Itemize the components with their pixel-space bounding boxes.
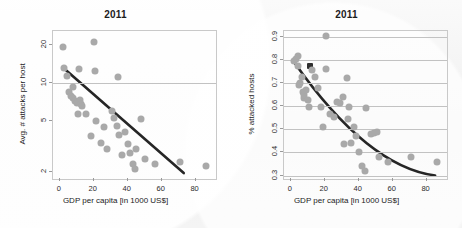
y-axis-tick-label: 2 bbox=[39, 169, 48, 173]
x-axis-tick-label: 0 bbox=[57, 184, 61, 193]
y-axis-tick-label: 0.3 bbox=[270, 169, 279, 179]
data-point bbox=[350, 123, 357, 130]
data-point bbox=[141, 156, 148, 163]
y-axis-tick-mark bbox=[49, 120, 52, 121]
data-point bbox=[111, 115, 118, 122]
x-axis-tick-mark bbox=[93, 178, 94, 181]
y-axis-tick-mark bbox=[280, 82, 283, 83]
y-axis-tick-mark bbox=[280, 175, 283, 176]
x-axis-tick-label: 0 bbox=[288, 184, 292, 193]
gridline bbox=[284, 176, 447, 177]
data-point bbox=[344, 115, 351, 122]
gridline bbox=[53, 83, 216, 84]
data-point bbox=[304, 97, 311, 104]
x-axis-tick-mark bbox=[127, 178, 128, 181]
data-point bbox=[433, 158, 440, 165]
data-point bbox=[78, 103, 85, 110]
gridline bbox=[284, 60, 447, 61]
y-axis-tick-mark bbox=[49, 44, 52, 45]
data-point bbox=[131, 166, 138, 173]
data-point bbox=[353, 133, 360, 140]
figure-root: 2011 251020020406080 GDP per capita [in … bbox=[0, 0, 462, 228]
data-point bbox=[355, 149, 362, 156]
x-axis-tick-label: 40 bbox=[123, 184, 131, 193]
data-point bbox=[64, 72, 71, 79]
y-axis-tick-label: 0.5 bbox=[270, 123, 279, 133]
y-axis-tick-label: 20 bbox=[39, 40, 48, 48]
gridline bbox=[284, 37, 447, 38]
panel-left-avg-attacks: 2011 251020020406080 GDP per capita [in … bbox=[0, 0, 231, 228]
data-point bbox=[60, 43, 67, 50]
data-point bbox=[114, 74, 121, 81]
panel-right-xlabel: GDP per capita [in 1000 US$] bbox=[231, 196, 462, 205]
data-point bbox=[151, 161, 158, 168]
x-axis-tick-label: 60 bbox=[156, 184, 164, 193]
data-point bbox=[295, 62, 302, 69]
y-axis-tick-mark bbox=[280, 59, 283, 60]
x-axis-tick-mark bbox=[290, 178, 291, 181]
panel-right-ylabel: % attacked hosts bbox=[247, 74, 256, 135]
x-axis-tick-mark bbox=[59, 178, 60, 181]
data-point bbox=[348, 140, 355, 147]
data-point bbox=[70, 84, 77, 91]
gridline bbox=[284, 83, 447, 84]
y-axis-tick-mark bbox=[280, 36, 283, 37]
x-axis-tick-label: 80 bbox=[190, 184, 198, 193]
data-point bbox=[314, 84, 321, 91]
data-point bbox=[346, 104, 353, 111]
x-axis-tick-mark bbox=[195, 178, 196, 181]
y-axis-tick-label: 10 bbox=[39, 78, 48, 86]
y-axis-tick-label: 0.4 bbox=[270, 146, 279, 156]
panel-left-xlabel: GDP per capita [in 1000 US$] bbox=[0, 196, 231, 205]
data-point bbox=[133, 146, 140, 153]
y-axis-tick-mark bbox=[280, 128, 283, 129]
data-point bbox=[122, 129, 129, 136]
x-axis-tick-mark bbox=[161, 178, 162, 181]
data-point bbox=[323, 66, 330, 73]
data-point bbox=[124, 141, 131, 148]
data-point bbox=[118, 152, 125, 159]
data-point bbox=[306, 104, 313, 111]
data-point bbox=[309, 67, 316, 74]
data-point bbox=[74, 111, 81, 118]
data-point bbox=[339, 93, 346, 100]
data-point bbox=[91, 67, 98, 74]
data-point bbox=[76, 66, 83, 73]
data-point bbox=[294, 53, 301, 60]
data-point bbox=[303, 86, 310, 93]
x-axis-tick-label: 80 bbox=[421, 184, 429, 193]
data-point bbox=[138, 116, 145, 123]
gridline bbox=[284, 129, 447, 130]
data-point bbox=[298, 74, 305, 81]
x-axis-tick-label: 20 bbox=[320, 184, 328, 193]
data-point bbox=[363, 105, 370, 112]
y-axis-tick-label: 0.9 bbox=[270, 31, 279, 41]
data-point bbox=[100, 124, 107, 131]
y-axis-tick-mark bbox=[49, 171, 52, 172]
x-axis-tick-mark bbox=[358, 178, 359, 181]
x-axis-tick-label: 40 bbox=[354, 184, 362, 193]
y-axis-tick-label: 0.8 bbox=[270, 54, 279, 64]
data-point bbox=[343, 75, 350, 82]
panel-left-ylabel: Avg. # attacks per host bbox=[18, 63, 27, 144]
data-point bbox=[331, 113, 338, 120]
data-point bbox=[97, 139, 104, 146]
data-point bbox=[90, 38, 97, 45]
data-point bbox=[373, 128, 380, 135]
data-point bbox=[376, 154, 383, 161]
x-axis-tick-mark bbox=[426, 178, 427, 181]
y-axis-tick-mark bbox=[49, 82, 52, 83]
gridline bbox=[284, 152, 447, 153]
data-point bbox=[312, 74, 319, 81]
y-axis-tick-mark bbox=[280, 105, 283, 106]
data-point bbox=[202, 163, 209, 170]
data-point bbox=[93, 118, 100, 125]
data-point bbox=[408, 154, 415, 161]
panel-left-title: 2011 bbox=[0, 9, 231, 20]
data-point bbox=[88, 133, 95, 140]
panel-right-attacked-hosts: 2011 0.30.40.50.60.70.80.9020406080 GDP … bbox=[231, 0, 462, 228]
data-point bbox=[361, 167, 368, 174]
data-point bbox=[384, 158, 391, 165]
x-axis-tick-label: 60 bbox=[387, 184, 395, 193]
x-axis-tick-label: 20 bbox=[89, 184, 97, 193]
